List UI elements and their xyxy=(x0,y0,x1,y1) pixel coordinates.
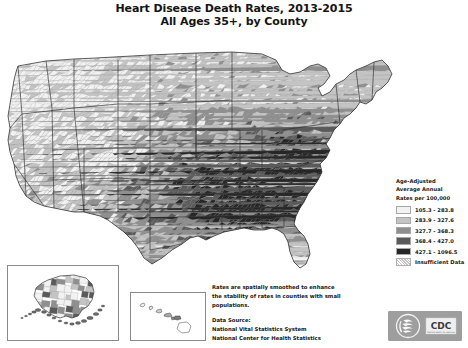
county-polygon xyxy=(10,250,20,256)
county-polygon xyxy=(0,127,4,131)
county-polygon xyxy=(389,39,399,45)
county-polygon xyxy=(261,231,271,236)
county-polygon xyxy=(23,208,33,215)
county-polygon xyxy=(328,181,336,186)
county-polygon xyxy=(369,201,377,206)
county-polygon xyxy=(360,194,370,201)
county-polygon xyxy=(328,43,335,49)
county-polygon xyxy=(253,275,262,278)
county-polygon xyxy=(397,135,400,140)
county-polygon xyxy=(19,33,28,39)
county-polygon xyxy=(383,47,390,54)
county-polygon xyxy=(0,228,9,234)
county-polygon xyxy=(373,217,382,225)
county-polygon xyxy=(59,251,68,256)
county-polygon xyxy=(397,149,400,155)
county-polygon xyxy=(378,98,386,105)
county-polygon xyxy=(13,199,21,205)
county-polygon xyxy=(273,247,282,252)
county-polygon xyxy=(60,228,69,232)
county-polygon xyxy=(0,53,3,58)
county-polygon xyxy=(11,199,20,204)
county-polygon xyxy=(345,275,353,280)
county-polygon xyxy=(38,47,47,53)
alaska-borough xyxy=(78,285,85,291)
county-polygon xyxy=(396,85,400,92)
county-polygon xyxy=(74,255,84,261)
county-polygon xyxy=(172,44,179,48)
alaska-borough xyxy=(27,321,37,327)
county-polygon xyxy=(197,249,206,256)
county-polygon xyxy=(333,199,339,207)
county-polygon xyxy=(336,167,345,173)
county-polygon xyxy=(327,38,336,43)
county-polygon xyxy=(43,212,52,219)
county-polygon xyxy=(364,268,372,275)
county-polygon xyxy=(382,135,391,141)
county-polygon xyxy=(1,89,11,95)
county-polygon xyxy=(341,231,348,238)
county-polygon xyxy=(355,139,363,145)
county-polygon xyxy=(339,33,348,40)
county-polygon xyxy=(262,236,270,241)
county-polygon xyxy=(354,135,363,140)
county-polygon xyxy=(82,38,92,46)
cdc-logo-subtext: DEPARTMENT OF HEALTH xyxy=(427,331,455,334)
county-polygon xyxy=(208,42,218,50)
county-polygon xyxy=(26,255,35,261)
county-polygon xyxy=(62,237,69,242)
county-polygon xyxy=(314,52,323,59)
county-polygon xyxy=(382,132,392,137)
county-polygon xyxy=(343,49,353,53)
cdc-logo-text: CDC xyxy=(431,321,452,331)
county-polygon xyxy=(243,34,254,40)
county-polygon xyxy=(314,48,323,54)
alaska-island xyxy=(87,316,93,319)
county-polygon xyxy=(196,242,206,248)
county-polygon xyxy=(314,198,323,205)
county-polygon xyxy=(372,136,383,140)
smoothing-note-line-1: Rates are spatially smoothed to enhance xyxy=(212,283,352,292)
county-polygon xyxy=(0,231,11,238)
county-polygon xyxy=(395,171,400,176)
county-polygon xyxy=(333,148,342,154)
county-polygon xyxy=(353,119,365,122)
county-polygon xyxy=(3,204,13,210)
county-polygon xyxy=(102,223,111,229)
county-polygon xyxy=(98,223,106,229)
county-polygon xyxy=(0,247,3,251)
county-polygon xyxy=(180,35,189,39)
county-polygon xyxy=(394,93,400,100)
county-polygon xyxy=(307,268,319,276)
county-polygon xyxy=(184,265,194,271)
county-polygon xyxy=(0,148,6,156)
county-polygon xyxy=(110,247,119,251)
county-polygon xyxy=(8,177,17,183)
county-polygon xyxy=(83,229,93,235)
county-polygon xyxy=(11,236,18,242)
county-polygon xyxy=(24,235,34,240)
county-polygon xyxy=(387,47,396,53)
smoothing-note: Rates are spatially smoothed to enhance … xyxy=(212,283,352,310)
county-polygon xyxy=(101,227,110,234)
alaska-island xyxy=(58,320,62,322)
county-polygon xyxy=(50,40,62,46)
county-polygon xyxy=(282,56,289,62)
county-polygon xyxy=(169,33,180,38)
county-polygon xyxy=(250,255,259,259)
county-polygon xyxy=(100,39,110,46)
county-polygon xyxy=(66,33,74,39)
county-polygon xyxy=(383,238,390,243)
county-polygon xyxy=(362,43,372,50)
county-polygon xyxy=(46,245,57,252)
county-polygon xyxy=(377,259,385,265)
county-polygon xyxy=(13,247,23,251)
county-polygon xyxy=(35,251,46,256)
county-polygon xyxy=(22,52,34,59)
hawaii-island xyxy=(177,322,191,333)
county-polygon xyxy=(181,47,188,54)
county-polygon xyxy=(361,241,368,248)
county-polygon xyxy=(332,53,342,58)
county-polygon xyxy=(328,209,335,215)
county-polygon xyxy=(322,236,333,242)
